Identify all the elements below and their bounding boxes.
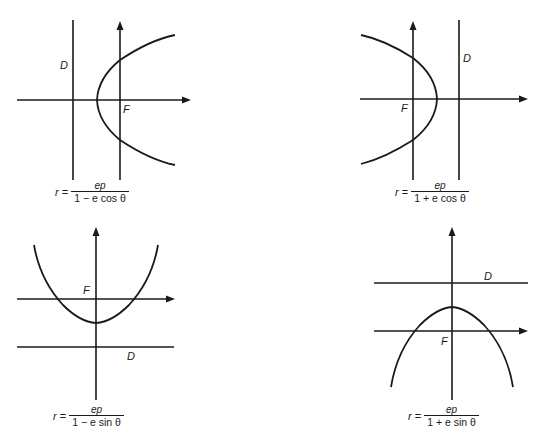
arrow-right-icon	[166, 296, 175, 303]
directrix-label: D	[60, 59, 68, 71]
arrow-up-icon	[117, 21, 124, 30]
directrix-label: D	[127, 350, 135, 362]
numerator: ep	[92, 180, 107, 191]
directrix-label: D	[463, 52, 471, 64]
formula-lhs: r =	[55, 186, 68, 198]
focus-label: F	[123, 103, 131, 115]
formula-lhs: r =	[408, 410, 421, 422]
arrow-right-icon	[519, 96, 528, 103]
panel-top-right: D F	[360, 20, 528, 180]
formula-top-left: r = ep 1 − e cos θ	[55, 180, 129, 205]
fraction: ep 1 − e cos θ	[71, 180, 129, 205]
focus-label: F	[401, 102, 409, 114]
numerator: ep	[444, 404, 459, 415]
fraction: ep 1 + e cos θ	[411, 180, 469, 205]
formula-bottom-right: r = ep 1 + e sin θ	[408, 404, 479, 429]
fraction: ep 1 + e sin θ	[424, 404, 479, 429]
arrow-up-icon	[410, 21, 417, 30]
fraction: ep 1 − e sin θ	[69, 404, 124, 429]
arrow-right-icon	[182, 97, 191, 104]
formula-top-right: r = ep 1 + e cos θ	[395, 180, 469, 205]
arrow-up-icon	[449, 227, 456, 236]
formula-bottom-left: r = ep 1 − e sin θ	[53, 404, 124, 429]
panel-bottom-right: D F	[374, 227, 528, 400]
formula-lhs: r =	[395, 186, 408, 198]
panel-bottom-left: F D	[17, 227, 175, 400]
focus-label: F	[441, 335, 449, 347]
panel-top-left: D F	[17, 20, 191, 180]
formula-lhs: r =	[53, 410, 66, 422]
denominator: 1 + e cos θ	[411, 191, 469, 205]
arrow-right-icon	[519, 328, 528, 335]
denominator: 1 − e sin θ	[69, 415, 124, 429]
directrix-label: D	[484, 270, 492, 282]
denominator: 1 − e cos θ	[71, 191, 129, 205]
arrow-up-icon	[93, 227, 100, 236]
conic-sections-figure: D F D F F D D F	[0, 0, 540, 434]
numerator: ep	[89, 404, 104, 415]
numerator: ep	[432, 180, 447, 191]
focus-label: F	[83, 284, 91, 296]
denominator: 1 + e sin θ	[424, 415, 479, 429]
